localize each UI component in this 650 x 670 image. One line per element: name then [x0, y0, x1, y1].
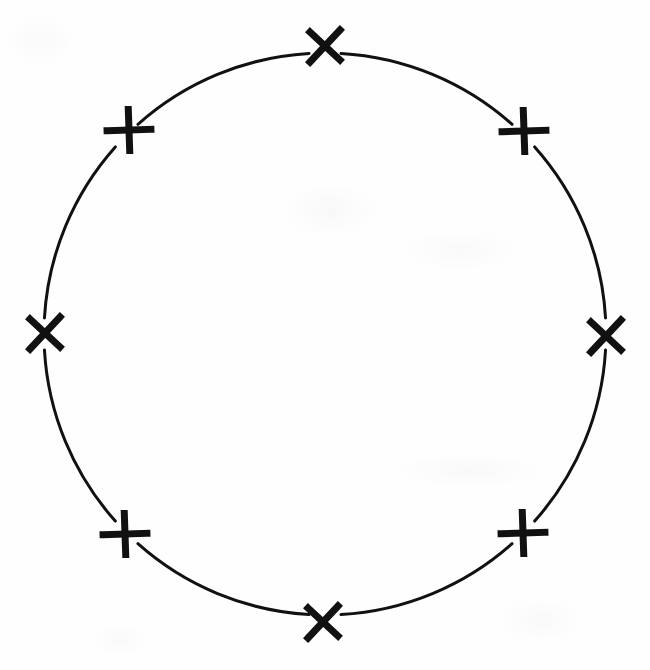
figure-canvas — [0, 0, 650, 670]
x-marker-top — [310, 30, 340, 62]
x-marker-bottom — [308, 606, 338, 638]
circle-arc-segment — [44, 147, 115, 318]
circle-arc-segment — [535, 350, 606, 521]
circle-arc-segment — [44, 350, 115, 521]
circle-with-x-marks-diagram — [0, 0, 650, 670]
x-marker-right — [591, 320, 621, 352]
circle-arc-segment — [341, 53, 512, 124]
x-marker-left — [30, 317, 60, 349]
x-marker-upper-right — [502, 109, 546, 153]
circle-arc-segment — [138, 53, 309, 124]
x-marker-group — [30, 30, 621, 638]
circle-arc-segment — [341, 544, 512, 615]
x-marker-lower-left — [103, 512, 147, 556]
circle-arc-segment — [535, 147, 606, 318]
x-marker-upper-left — [107, 108, 151, 152]
circle-arc-segment — [138, 544, 309, 615]
